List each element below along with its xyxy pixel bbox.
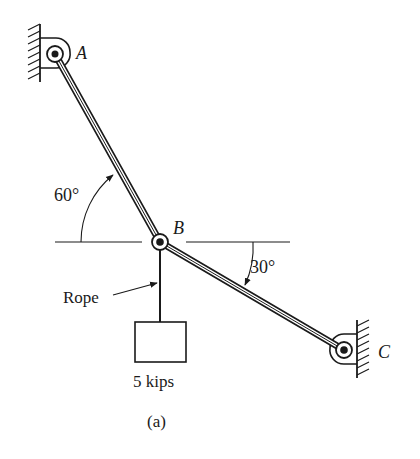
label-rope: Rope — [63, 289, 99, 306]
label-point-c: C — [378, 343, 390, 361]
label-load: 5 kips — [133, 373, 174, 390]
figure-caption: (a) — [147, 413, 166, 430]
label-point-a: A — [76, 44, 87, 62]
angle-arc-60 — [81, 175, 113, 242]
pin-c — [336, 342, 352, 358]
member-ab — [55, 54, 160, 242]
label-angle-60: 60° — [54, 186, 79, 204]
truss-diagram: A B C 60° 30° Rope 5 kips (a) — [0, 0, 420, 459]
pin-b — [152, 234, 168, 250]
rope-leader-arrow — [113, 283, 157, 295]
diagram-drawing — [0, 0, 420, 459]
pin-a — [47, 46, 63, 62]
label-angle-30: 30° — [250, 258, 275, 276]
load-box — [135, 322, 186, 362]
label-point-b: B — [173, 219, 184, 237]
